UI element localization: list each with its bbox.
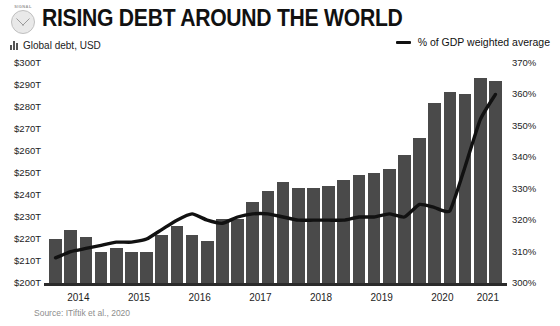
line-marker-icon (396, 41, 411, 44)
y-axis-left: $200T$210T$220T$230T$240T$250T$260T$270T… (0, 58, 44, 288)
x-axis-labels: 20142015201620172018201920202021 (0, 292, 560, 306)
x-tick-label: 2020 (431, 292, 453, 303)
circular-emblem-logo-icon (11, 10, 35, 34)
y-tick-right: 340% (512, 151, 536, 162)
line-series (48, 63, 503, 283)
y-tick-left: $200T (14, 277, 41, 288)
infographic-root: SIGNAL RISING DEBT AROUND THE WORLD Glob… (0, 0, 560, 326)
brand-tag: SIGNAL (6, 4, 40, 9)
legend-label: % of GDP weighted average (418, 36, 550, 48)
subtitle-row: Global debt, USD (10, 40, 101, 51)
y-tick-left: $290T (14, 79, 41, 90)
plot-area (48, 63, 503, 283)
y-tick-right: 320% (512, 214, 536, 225)
y-tick-left: $210T (14, 255, 41, 266)
y-tick-right: 310% (512, 246, 536, 257)
y-tick-left: $260T (14, 145, 41, 156)
y-tick-left: $270T (14, 123, 41, 134)
x-tick-label: 2015 (128, 292, 150, 303)
y-tick-left: $300T (14, 57, 41, 68)
y-tick-right: 330% (512, 183, 536, 194)
y-tick-right: 350% (512, 120, 536, 131)
x-tick-label: 2019 (371, 292, 393, 303)
x-tick-label: 2017 (249, 292, 271, 303)
y-tick-left: $230T (14, 211, 41, 222)
y-tick-right: 300% (512, 277, 536, 288)
legend: % of GDP weighted average (396, 36, 550, 48)
y-tick-left: $240T (14, 189, 41, 200)
y-tick-left: $250T (14, 167, 41, 178)
x-tick-label: 2016 (189, 292, 211, 303)
y-tick-left: $220T (14, 233, 41, 244)
x-tick-label: 2018 (310, 292, 332, 303)
y-tick-left: $280T (14, 101, 41, 112)
x-tick-label: 2021 (477, 292, 499, 303)
y-axis-right: 300%310%320%330%340%350%360%370% (506, 58, 558, 288)
y-tick-right: 370% (512, 57, 536, 68)
chart-area: $200T$210T$220T$230T$240T$250T$260T$270T… (0, 58, 560, 290)
x-axis-line (44, 283, 507, 286)
subtitle-label: Global debt, USD (23, 40, 101, 51)
brand-logo: SIGNAL (6, 4, 40, 38)
bar-chart-icon (10, 41, 18, 50)
page-title: RISING DEBT AROUND THE WORLD (42, 6, 403, 31)
x-tick-label: 2014 (67, 292, 89, 303)
source-note: Source: ITiftik et al., 2020 (34, 308, 130, 318)
y-tick-right: 360% (512, 88, 536, 99)
